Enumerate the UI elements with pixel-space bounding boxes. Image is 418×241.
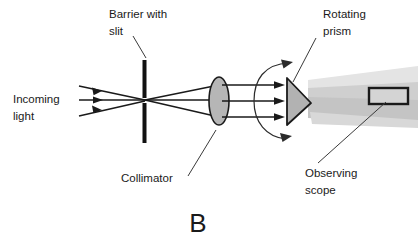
panel-letter: B bbox=[189, 208, 206, 238]
barrier-upper-segment bbox=[143, 60, 147, 98]
label-incoming-light-line2: light bbox=[13, 110, 35, 122]
incoming-light-rays bbox=[79, 86, 145, 116]
leader-line-prism bbox=[293, 38, 316, 82]
optics-diagram-canvas: Incoming light Barrier with slit Collima… bbox=[0, 0, 418, 241]
label-incoming-light-line1: Incoming bbox=[13, 93, 60, 105]
incoming-ray-upper-arrowhead bbox=[92, 88, 102, 96]
leader-line-barrier bbox=[133, 36, 146, 58]
incoming-ray-middle-arrowhead bbox=[93, 96, 103, 103]
label-rotating-prism-line1: Rotating bbox=[323, 8, 366, 20]
label-observing-scope-line1: Observing bbox=[305, 167, 357, 179]
label-rotating-prism-line2: prism bbox=[323, 25, 351, 37]
rotation-arc-arrowhead-bottom bbox=[280, 133, 292, 142]
label-barrier-line1: Barrier with bbox=[109, 8, 167, 20]
label-barrier-line2: slit bbox=[109, 25, 124, 37]
rotating-prism-body bbox=[287, 78, 311, 125]
barrier-lower-segment bbox=[143, 103, 147, 143]
diverging-ray-upper bbox=[145, 85, 219, 100]
label-collimator: Collimator bbox=[121, 172, 173, 184]
incoming-ray-lower bbox=[79, 101, 145, 116]
rotating-prism bbox=[287, 78, 311, 125]
observing-scope-body bbox=[369, 88, 408, 104]
label-observing-scope-line2: scope bbox=[305, 184, 336, 196]
observing-scope bbox=[369, 88, 408, 104]
diverging-rays bbox=[145, 85, 219, 117]
collimated-ray-upper-arrowhead bbox=[274, 81, 285, 89]
leader-line-collimator bbox=[188, 130, 216, 176]
incoming-ray-upper bbox=[79, 86, 145, 100]
diverging-ray-lower bbox=[145, 100, 219, 117]
collimated-ray-lower-arrowhead bbox=[274, 113, 285, 121]
rotation-arc-arrowhead-top bbox=[281, 60, 293, 69]
optics-diagram-figure: Incoming light Barrier with slit Collima… bbox=[0, 0, 418, 241]
collimated-ray-middle-arrowhead bbox=[274, 97, 285, 105]
